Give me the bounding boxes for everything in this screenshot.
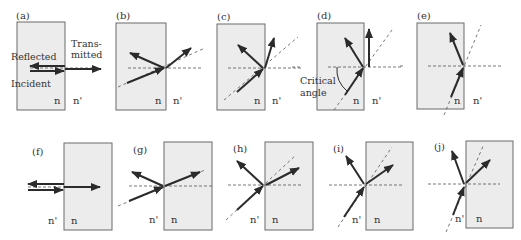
index-n: n (71, 215, 78, 226)
panel-label: (b) (116, 10, 130, 21)
refraction-diagram: (a) Reflected Trans- mitted Incident n n… (0, 0, 521, 240)
panel-f: (f) n' n (28, 143, 112, 230)
panel-g: (g) n' n (118, 142, 212, 230)
critical-label-line2: angle (300, 87, 327, 98)
index-n: n (254, 95, 261, 106)
panel-c: (c) n n' (217, 11, 302, 110)
transmitted-label-line2: mitted (71, 49, 102, 60)
refracted-ray (166, 48, 191, 68)
reflected-ray (237, 161, 263, 185)
reflected-ray (132, 172, 163, 186)
panel-b: (b) n n' (116, 10, 205, 110)
transmitted-label-line1: Trans- (71, 38, 102, 49)
index-n-prime: n' (352, 214, 361, 225)
panel-i: (i) n' n (329, 142, 413, 230)
panel-label: (f) (32, 146, 44, 157)
index-n-prime: n' (48, 215, 57, 226)
incident-ray (237, 186, 263, 210)
panel-label: (c) (217, 11, 231, 22)
index-n-prime: n' (149, 214, 158, 225)
panel-label: (e) (417, 10, 431, 21)
panel-label: (d) (317, 10, 331, 21)
index-n-prime: n' (272, 95, 281, 106)
panel-h: (h) n' n (226, 142, 313, 230)
reflected-ray (346, 156, 364, 184)
panel-label: (g) (133, 144, 147, 155)
medium-box (466, 141, 513, 228)
incident-label: Incident (11, 78, 51, 89)
index-n-prime: n' (372, 95, 381, 106)
index-n-prime: n' (473, 95, 482, 106)
panel-e: (e) n n' (400, 10, 501, 115)
index-n: n (476, 213, 483, 224)
index-n: n (454, 95, 461, 106)
index-n-prime: n' (250, 214, 259, 225)
index-n: n (353, 95, 360, 106)
index-n-prime: n' (455, 213, 464, 224)
critical-label-line1: Critical (300, 75, 336, 86)
index-n: n (272, 214, 279, 225)
index-n: n (171, 214, 178, 225)
panel-label: (h) (233, 143, 247, 154)
panel-label: (i) (333, 143, 344, 154)
index-n: n (54, 95, 61, 106)
index-n-prime: n' (73, 95, 82, 106)
panel-d: (d) Critical angle n n' (292, 10, 402, 110)
index-n: n (374, 214, 381, 225)
reflected-ray (452, 151, 464, 184)
panel-a: (a) Reflected Trans- mitted Incident n n… (11, 10, 102, 110)
refracted-ray (265, 38, 274, 68)
panel-j: (j) n' n (428, 141, 513, 232)
index-n: n (155, 95, 162, 106)
panel-label: (a) (16, 10, 30, 21)
reflected-label: Reflected (11, 51, 57, 62)
incident-ray (453, 187, 464, 215)
panel-label: (j) (434, 141, 445, 152)
index-n-prime: n' (173, 95, 182, 106)
incident-ray (129, 187, 163, 201)
incident-ray (344, 187, 364, 217)
